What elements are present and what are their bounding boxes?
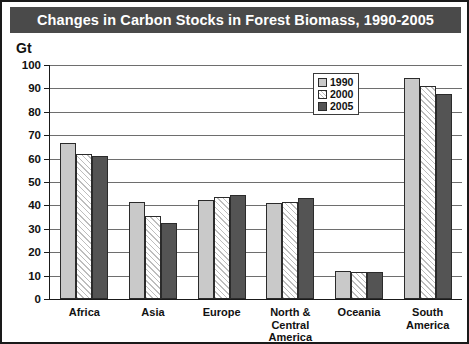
bar-1990[interactable] <box>266 203 282 299</box>
legend-item-1990[interactable]: 1990 <box>318 77 353 87</box>
x-axis-category-label: Asia <box>119 306 188 319</box>
y-axis-tick-label: 20 <box>28 246 41 258</box>
y-axis-tick-label: 90 <box>28 82 41 94</box>
bar-1990[interactable] <box>60 143 76 299</box>
y-axis-tick-label: 30 <box>28 223 41 235</box>
y-axis-tick-label: 10 <box>28 270 41 282</box>
bar-2005[interactable] <box>367 272 383 299</box>
y-axis-tick-label: 60 <box>28 153 41 165</box>
y-axis-unit-label: Gt <box>16 40 32 56</box>
legend-label: 1990 <box>330 77 353 87</box>
bar-2000[interactable] <box>145 216 161 299</box>
chart-title: Changes in Carbon Stocks in Forest Bioma… <box>37 12 434 28</box>
bar-1990[interactable] <box>335 271 351 299</box>
chart-title-bar: Changes in Carbon Stocks in Forest Bioma… <box>10 7 461 33</box>
bar-2005[interactable] <box>92 156 108 299</box>
y-axis-tick-label: 50 <box>28 176 41 188</box>
white-hatched-swatch <box>318 90 327 99</box>
bar-2000[interactable] <box>420 86 436 299</box>
bar-2005[interactable] <box>436 94 452 299</box>
bar-group <box>50 65 119 299</box>
y-axis-tick-label: 70 <box>28 129 41 141</box>
bar-2000[interactable] <box>351 272 367 299</box>
plot-area: 0102030405060708090100AfricaAsiaEuropeNo… <box>49 65 462 300</box>
legend-label: 2005 <box>330 101 353 111</box>
x-axis-category-label: Oceania <box>325 306 394 319</box>
x-axis-category-label: North &CentralAmerica <box>256 306 325 344</box>
legend-label: 2000 <box>330 89 353 99</box>
y-axis-tick-label: 40 <box>28 199 41 211</box>
bar-group <box>393 65 462 299</box>
legend-item-2000[interactable]: 2000 <box>318 89 353 99</box>
light-gray-swatch <box>318 78 327 87</box>
bar-2005[interactable] <box>298 198 314 299</box>
y-axis-tick-label: 0 <box>35 293 41 305</box>
y-axis-tick-label: 100 <box>22 59 41 71</box>
y-axis-tick <box>44 299 50 300</box>
bar-1990[interactable] <box>129 202 145 299</box>
bar-group <box>119 65 188 299</box>
y-axis-tick-label: 80 <box>28 106 41 118</box>
bar-2005[interactable] <box>230 195 246 299</box>
bar-2000[interactable] <box>214 197 230 299</box>
bar-2000[interactable] <box>76 154 92 299</box>
bar-2000[interactable] <box>282 202 298 299</box>
bar-group <box>187 65 256 299</box>
x-axis-category-label: Europe <box>187 306 256 319</box>
dark-gray-swatch <box>318 102 327 111</box>
x-axis-category-label: Africa <box>50 306 119 319</box>
legend-item-2005[interactable]: 2005 <box>318 101 353 111</box>
bar-2005[interactable] <box>161 223 177 299</box>
x-axis-category-label: SouthAmerica <box>393 306 462 331</box>
chart-legend: 199020002005 <box>313 73 359 115</box>
bar-1990[interactable] <box>198 200 214 299</box>
bar-1990[interactable] <box>404 78 420 299</box>
chart-figure: Changes in Carbon Stocks in Forest Bioma… <box>0 0 469 344</box>
